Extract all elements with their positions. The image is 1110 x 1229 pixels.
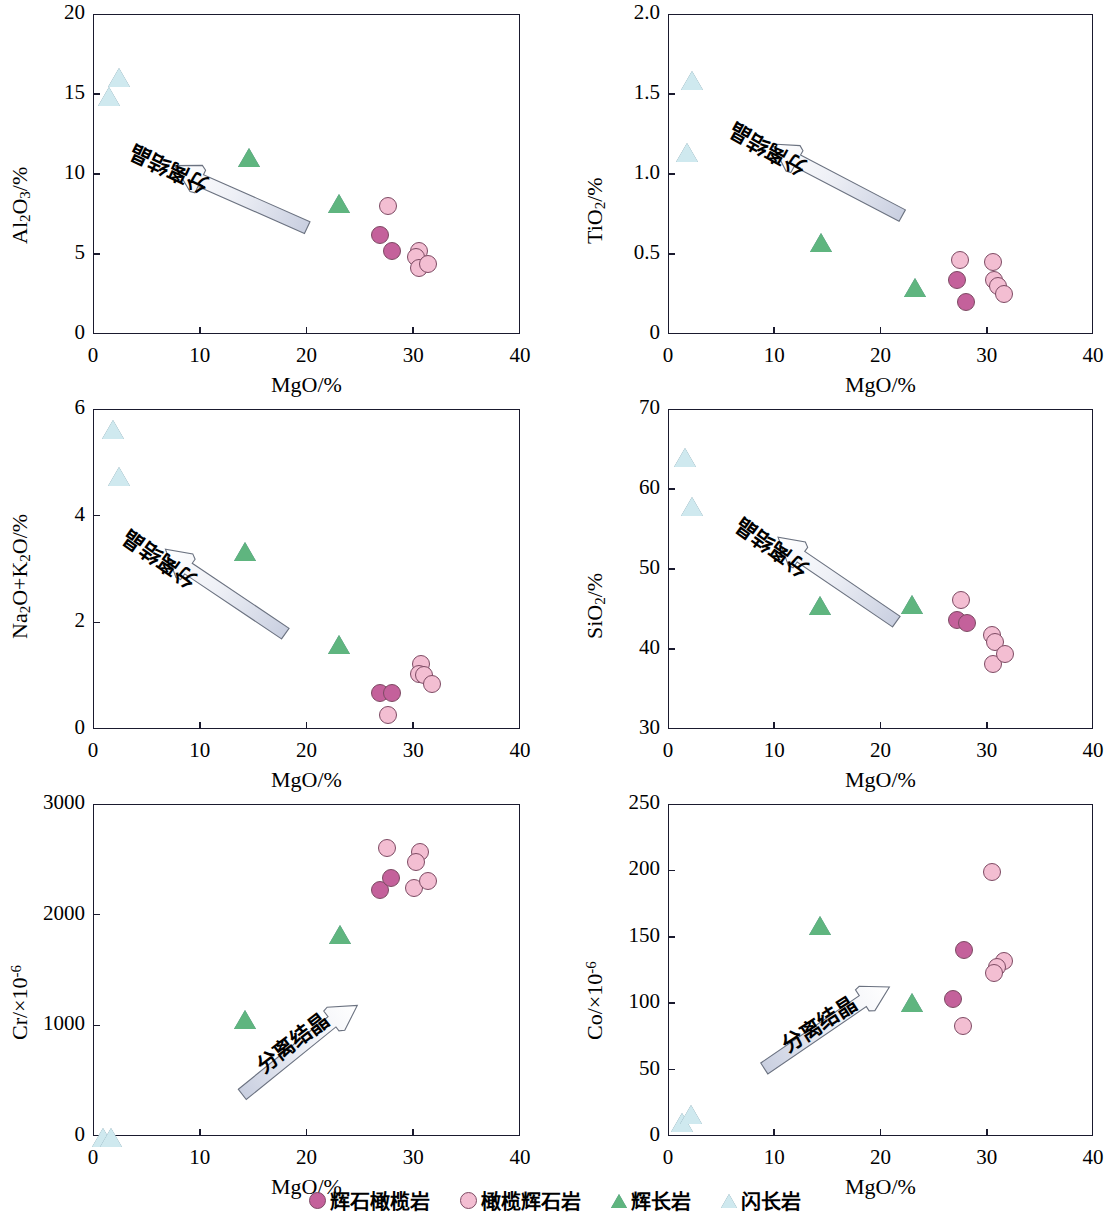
legend-circle-marker — [309, 1192, 326, 1209]
panel-co-xtick-label: 0 — [638, 1145, 698, 1170]
figure-harker-diagrams: 05101520010203040MgO/%Al2O3/%分离结晶00.51.0… — [0, 0, 1110, 1229]
panel-co: 050100150200250010203040MgO/%Co/×10-6分离结… — [0, 0, 1110, 1229]
panel-co-xtick-label: 20 — [851, 1145, 911, 1170]
legend-label: 辉石橄榄岩 — [330, 1186, 430, 1215]
legend-label: 闪长岩 — [741, 1186, 801, 1215]
panel-co-xtick — [880, 1129, 882, 1136]
panel-co-ytick — [668, 1069, 675, 1071]
panel-co-ytick — [668, 870, 675, 872]
panel-co-xtick-label: 40 — [1063, 1145, 1110, 1170]
legend-item-olivine-pyroxenite[interactable]: 橄榄辉石岩 — [460, 1186, 581, 1215]
panel-co-xtick-label: 30 — [957, 1145, 1017, 1170]
panel-co-plot-area — [668, 804, 1093, 1136]
panel-co-xtick — [773, 1129, 775, 1136]
legend-circle-marker — [460, 1192, 477, 1209]
panel-co-point-0-1 — [944, 990, 962, 1008]
panel-co-ytick-label: 200 — [590, 856, 660, 881]
panel-co-point-1-0 — [983, 863, 1001, 881]
panel-co-xtick — [986, 1129, 988, 1136]
legend-triangle-marker — [611, 1194, 627, 1208]
legend-item-diorite[interactable]: 闪长岩 — [721, 1186, 801, 1215]
panel-co-point-1-3 — [985, 964, 1003, 982]
legend-triangle-marker — [721, 1194, 737, 1208]
panel-co-xtick-label: 10 — [744, 1145, 804, 1170]
panel-co-ytick — [668, 936, 675, 938]
panel-co-point-2-1 — [901, 993, 923, 1012]
panel-co-ytick-label: 150 — [590, 923, 660, 948]
panel-co-point-2-0 — [809, 916, 831, 935]
panel-co-ytick — [668, 1002, 675, 1004]
panel-co-ytick-label: 0 — [590, 1122, 660, 1147]
panel-co-ytick-label: 250 — [590, 790, 660, 815]
panel-co-yaxis-title: Co/×10-6 — [582, 961, 608, 1040]
legend-item-gabbro[interactable]: 辉长岩 — [611, 1186, 691, 1215]
legend-label: 橄榄辉石岩 — [481, 1186, 581, 1215]
figure-legend: 辉石橄榄岩橄榄辉石岩辉长岩闪长岩 — [0, 1186, 1110, 1215]
legend-label: 辉长岩 — [631, 1186, 691, 1215]
panel-co-ytick-label: 50 — [590, 1056, 660, 1081]
panel-co-point-3-1 — [680, 1105, 702, 1124]
legend-item-pyroxene-peridotite[interactable]: 辉石橄榄岩 — [309, 1186, 430, 1215]
